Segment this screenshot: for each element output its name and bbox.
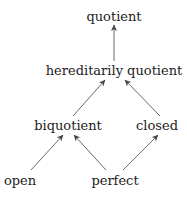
edge-closed-to-hereditarily — [125, 80, 160, 116]
edge-perfect-to-biquotient — [74, 135, 106, 170]
node-perfect: perfect — [91, 174, 138, 187]
node-open: open — [4, 174, 36, 187]
node-hereditarily-quotient: hereditarily quotient — [46, 64, 183, 77]
node-quotient: quotient — [86, 10, 141, 23]
node-biquotient: biquotient — [34, 119, 102, 132]
edge-open-to-biquotient — [31, 135, 63, 170]
diagram-edges — [0, 0, 187, 197]
node-closed: closed — [136, 119, 178, 132]
edge-perfect-to-closed — [123, 135, 158, 170]
edge-biquotient-to-hereditarily — [73, 80, 105, 116]
